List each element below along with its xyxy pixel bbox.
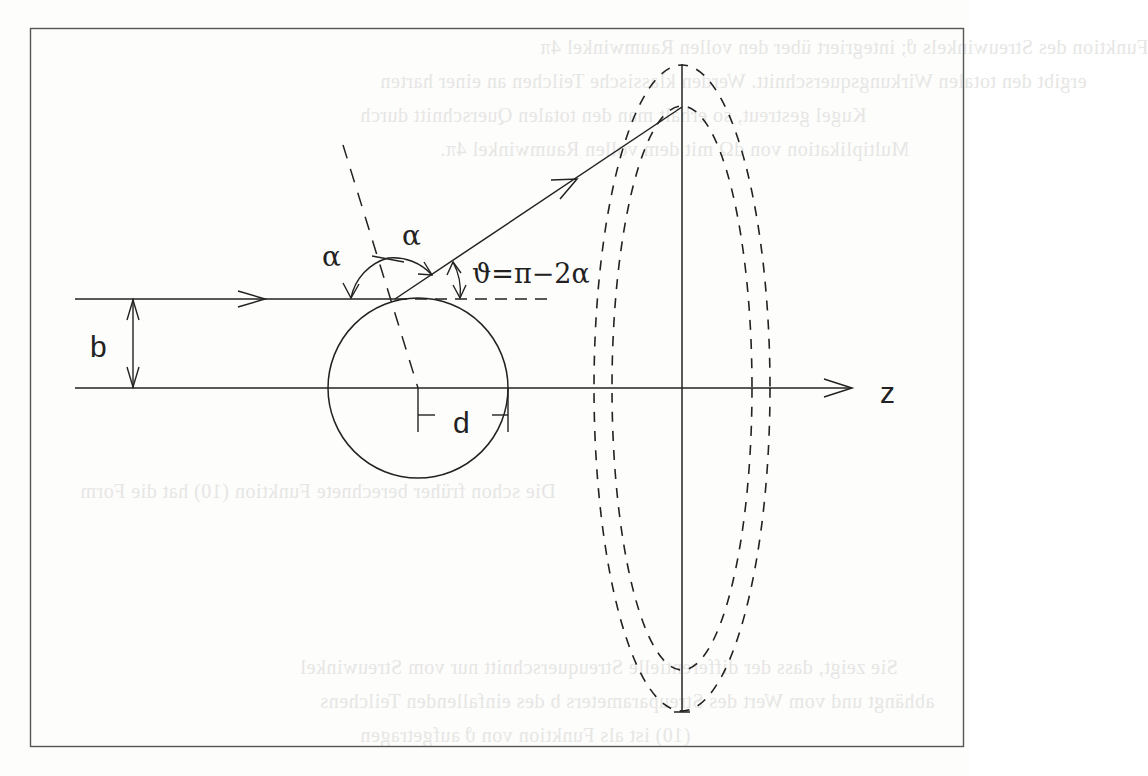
surface-normal — [343, 145, 418, 388]
scattering-angle-arrowhead-bottom — [453, 285, 466, 298]
impact-parameter-label: b — [90, 330, 107, 363]
axis-label-z: z — [880, 376, 895, 409]
distance-label: d — [453, 406, 470, 439]
scattered-ray-arrowhead — [551, 179, 577, 199]
angle-label-incident: α — [322, 240, 341, 273]
scattering-angle-label: ϑ=π−2α — [472, 258, 590, 289]
angle-label-reflected: α — [402, 219, 421, 252]
angle-arc-incident — [351, 258, 388, 298]
normal-crossing-tick — [372, 256, 404, 262]
scattering-angle-arrowhead-top — [447, 262, 461, 275]
